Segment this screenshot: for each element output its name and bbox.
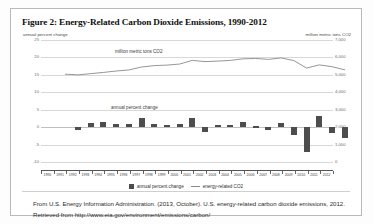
- y-tick-left: 15: [23, 73, 39, 77]
- figure-page: Figure 2: Energy-Related Carbon Dioxide …: [0, 0, 374, 224]
- left-axis-caption: annual percent change: [23, 32, 68, 37]
- gridline: [41, 162, 333, 163]
- caption-divider: [22, 191, 350, 192]
- chart-plot-area: 2520151050-5-10 7,0006,0005,0004,0003,00…: [23, 40, 351, 170]
- bar: [113, 124, 119, 127]
- figure-frame: Figure 2: Energy-Related Carbon Dioxide …: [10, 8, 362, 216]
- x-axis-labels: 1990199119921993199419951996199719981999…: [41, 173, 333, 181]
- bar: [278, 123, 284, 127]
- bar: [253, 126, 259, 127]
- legend-label-annual-percent-change: annual percent change: [137, 184, 184, 189]
- y-tick-right: 7,000: [335, 38, 355, 42]
- bar: [240, 122, 246, 127]
- bar: [316, 116, 322, 127]
- line-swatch-icon: [191, 186, 200, 187]
- y-tick-right: 5,000: [335, 73, 355, 77]
- legend-label-energy-related-co2: energy-related CO2: [203, 184, 243, 189]
- grid-area: [41, 40, 333, 162]
- y-tick-left: 5: [23, 108, 39, 112]
- x-tick-label: 2012: [320, 173, 334, 177]
- y-tick-right: 0: [335, 160, 355, 164]
- y-tick-right: 1,000: [335, 143, 355, 147]
- y-tick-right: 4,000: [335, 90, 355, 94]
- bar: [88, 123, 94, 128]
- chart-legend: annual percent change energy-related CO2: [11, 184, 361, 189]
- bar: [139, 118, 145, 127]
- y-tick-right: 2,000: [335, 125, 355, 129]
- bar: [177, 124, 183, 127]
- bar: [215, 125, 221, 127]
- bar: [189, 118, 195, 127]
- y-tick-left: 20: [23, 55, 39, 59]
- bar: [151, 124, 157, 127]
- y-tick-left: -10: [23, 160, 39, 164]
- bar: [164, 125, 170, 127]
- figure-title: Figure 2: Energy-Related Carbon Dioxide …: [22, 17, 267, 27]
- bar: [75, 127, 81, 129]
- bar: [126, 124, 132, 127]
- y-tick-left: 10: [23, 90, 39, 94]
- bar-series-annual-percent-change: [59, 40, 351, 162]
- y-tick-right: 6,000: [335, 55, 355, 59]
- bar-swatch-icon: [129, 184, 134, 189]
- y-tick-left: 0: [23, 125, 39, 129]
- figure-caption: From U.S. Energy Information Administrat…: [33, 199, 363, 220]
- line-series-annotation: million metric tons CO2: [115, 49, 162, 54]
- bar: [227, 125, 233, 127]
- legend-item-annual-percent-change: annual percent change: [129, 184, 184, 189]
- bar: [304, 127, 310, 152]
- y-tick-right: 3,000: [335, 108, 355, 112]
- bar-series-annotation: annual percent change: [111, 105, 158, 110]
- bar: [100, 122, 106, 127]
- y-tick-left: -5: [23, 143, 39, 147]
- bar: [291, 127, 297, 135]
- bar: [265, 127, 271, 130]
- y-tick-left: 25: [23, 38, 39, 42]
- bar: [202, 127, 208, 132]
- legend-item-energy-related-co2: energy-related CO2: [191, 184, 243, 189]
